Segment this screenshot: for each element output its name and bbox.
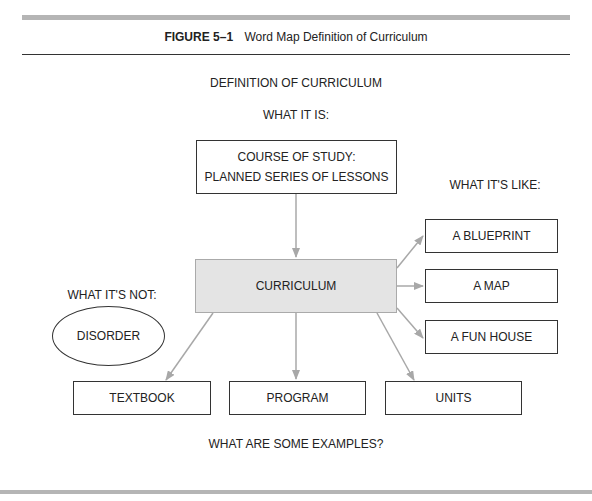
central-concept-box: CURRICULUM — [195, 259, 397, 313]
like-box-blueprint: A BLUEPRINT — [425, 219, 558, 253]
example-item-label: PROGRAM — [266, 388, 328, 408]
definition-box: COURSE OF STUDY: PLANNED SERIES OF LESSO… — [196, 140, 397, 194]
what-its-not-label: WHAT IT'S NOT: — [52, 288, 172, 302]
definition-line-1: COURSE OF STUDY: — [237, 147, 355, 167]
diagram-heading: DEFINITION OF CURRICULUM — [0, 76, 592, 90]
what-its-like-label: WHAT IT'S LIKE: — [430, 178, 560, 192]
central-concept-label: CURRICULUM — [256, 276, 337, 296]
bottom-decorative-bar — [0, 490, 592, 494]
arrow-to-blueprint — [397, 236, 423, 268]
like-item-label: A BLUEPRINT — [452, 226, 530, 246]
arrow-to-units — [377, 313, 414, 380]
example-box-textbook: TEXTBOOK — [73, 381, 211, 415]
example-box-program: PROGRAM — [229, 381, 366, 415]
examples-label: WHAT ARE SOME EXAMPLES? — [0, 437, 592, 451]
arrow-to-funhouse — [397, 308, 423, 338]
what-it-is-label: WHAT IT IS: — [0, 108, 592, 122]
like-box-funhouse: A FUN HOUSE — [425, 320, 558, 354]
arrow-to-textbook — [166, 313, 213, 380]
example-item-label: UNITS — [436, 388, 472, 408]
not-ellipse-disorder: DISORDER — [52, 306, 165, 366]
like-item-label: A MAP — [473, 276, 510, 296]
not-item-label: DISORDER — [77, 329, 140, 343]
example-box-units: UNITS — [385, 381, 522, 415]
definition-line-2: PLANNED SERIES OF LESSONS — [204, 167, 388, 187]
like-item-label: A FUN HOUSE — [451, 327, 532, 347]
example-item-label: TEXTBOOK — [109, 388, 174, 408]
like-box-map: A MAP — [425, 269, 558, 303]
